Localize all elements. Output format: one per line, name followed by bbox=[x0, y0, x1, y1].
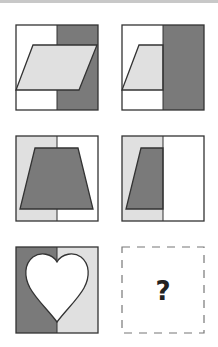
cell-r2c2 bbox=[122, 136, 204, 221]
question-mark: ? bbox=[122, 278, 204, 304]
cell-r2c1 bbox=[16, 136, 98, 221]
cell-r1c1 bbox=[16, 25, 98, 110]
cell-r3c1 bbox=[16, 247, 98, 333]
cell-r1c2 bbox=[122, 25, 204, 110]
